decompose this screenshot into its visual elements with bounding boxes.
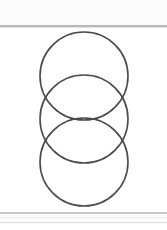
figure-canvas xyxy=(0,28,167,212)
circle-middle-outline xyxy=(40,75,128,163)
circle-bottom-outline xyxy=(40,118,128,206)
bottom-fill xyxy=(0,223,167,230)
top-chrome-band xyxy=(0,0,167,26)
bottom-divider-rule-mid xyxy=(0,217,167,218)
bottom-divider-rule xyxy=(0,212,167,214)
screenshot-root xyxy=(0,0,167,230)
circle-top-outline xyxy=(40,32,128,120)
overlapping-circles-figure xyxy=(0,28,167,212)
